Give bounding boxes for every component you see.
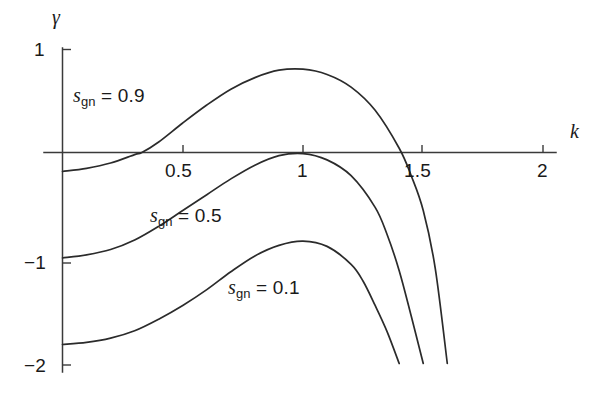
curve-s-gn-0-5 — [63, 153, 424, 363]
curve-s-gn-0-9 — [63, 69, 448, 364]
curve-label-sgn-0p9-variable: s — [73, 84, 81, 106]
y-tick-label-1: 1 — [34, 39, 45, 61]
x-axis-title: k — [570, 120, 579, 143]
x-tick-label-2: 2 — [537, 160, 548, 182]
curve-label-sgn-0p5: sgn = 0.5 — [150, 204, 222, 229]
curve-label-sgn-0p9: sgn = 0.9 — [73, 84, 145, 109]
x-tick-label-1: 1 — [297, 160, 308, 182]
chart-figure: γ k 1 −1 −2 0.5 1 1.5 2 sgn = 0.9 sgn = … — [0, 0, 610, 394]
curve-label-sgn-0p5-variable: s — [150, 204, 158, 226]
x-tick-label-0p5: 0.5 — [165, 160, 192, 182]
curve-group — [63, 69, 448, 364]
curve-s-gn-0-1 — [63, 241, 400, 363]
curve-label-sgn-0p5-value: = 0.5 — [178, 205, 222, 226]
curve-label-sgn-0p9-value: = 0.9 — [101, 85, 145, 106]
curve-label-sgn-0p9-subscript: gn — [81, 94, 95, 109]
curve-label-sgn-0p1: sgn = 0.1 — [228, 276, 300, 301]
y-tick-label-neg1: −1 — [24, 252, 46, 274]
plot-area — [0, 0, 610, 394]
curve-label-sgn-0p5-subscript: gn — [158, 214, 172, 229]
y-tick-label-neg2: −2 — [24, 355, 46, 377]
y-axis-title: γ — [52, 6, 60, 29]
curve-label-sgn-0p1-value: = 0.1 — [256, 277, 300, 298]
curve-label-sgn-0p1-subscript: gn — [236, 286, 250, 301]
curve-label-sgn-0p1-variable: s — [228, 276, 236, 298]
x-tick-label-1p5: 1.5 — [404, 160, 431, 182]
